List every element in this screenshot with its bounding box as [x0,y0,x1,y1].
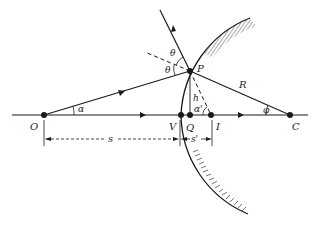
angle-alpha-arc [73,106,74,115]
point-C [287,112,293,118]
point-O [41,112,47,118]
label-theta-upper: θ [170,48,176,58]
mirror-hatching-top [204,18,256,58]
incident-arrow-icon [118,90,125,96]
label-s-prime: s' [191,134,198,144]
angle-alpha-prime-arc [203,107,207,115]
label-h: h [193,93,199,103]
label-Q: Q [186,122,194,133]
point-V [178,112,184,118]
label-I: I [215,121,221,132]
point-P [187,68,193,74]
angle-theta-lower-arc [174,65,175,75]
dimension-arrow-icon [45,137,51,141]
label-V: V [169,121,178,132]
point-I [208,112,214,118]
reflected-arrow-icon [171,25,176,32]
label-s: s [108,133,113,144]
angle-theta-upper-arc [176,57,183,65]
axis-arrow-icon [140,112,146,118]
label-alpha: α [78,104,84,114]
point-Q [187,112,193,118]
dimension-arrow-icon [206,137,211,141]
label-P: P [196,63,204,74]
label-theta-lower: θ [165,65,171,75]
reflected-ray [160,10,190,71]
label-phi: φ [263,105,270,115]
label-alpha-prime: α' [194,104,203,114]
label-O: O [30,121,38,132]
mirror-hatching-bottom-lines [193,150,246,211]
incident-ray [44,71,190,115]
concave-mirror-diagram: O V Q I C P α α' φ θ θ h R s s' [0,0,323,228]
dimension-arrow-icon [173,137,179,141]
label-C: C [292,121,300,132]
label-R: R [238,79,247,90]
axis-arrow-icon [238,112,244,118]
